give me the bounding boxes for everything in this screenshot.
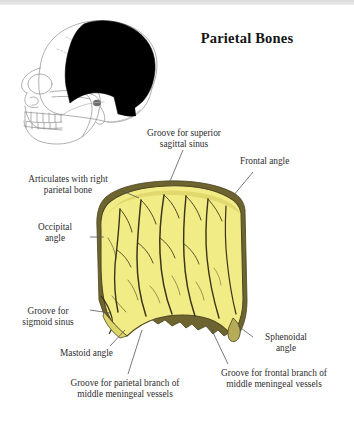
label-occipital-angle: Occipital angle [22,222,88,244]
bone-body-shape [101,186,243,336]
label-frontal-angle: Frontal angle [240,156,336,167]
label-groove-frontal-branch-middle-meningeal-vessels: Groove for frontal branch of middle meni… [198,368,350,390]
figure-title: Parietal Bones [172,30,322,47]
vascular-grooves [108,195,236,318]
leader-frontal-angle [233,172,253,196]
mastoid-angle-notch [103,312,127,338]
leader-sigmoid-sinus [90,310,110,313]
label-groove-superior-sagittal-sinus: Groove for superior sagittal sinus [130,128,238,150]
figure-canvas: Parietal Bones [0,0,354,442]
label-groove-sigmoid-sinus: Groove for sigmoid sinus [6,306,90,328]
parietal-highlight-shape [65,21,155,114]
label-groove-parietal-branch-middle-meningeal-vessels: Groove for parietal branch of middle men… [44,378,206,400]
bone-serrated-edge [97,181,247,340]
label-sphenoidal-angle: Sphenoidal angle [250,332,322,354]
top-gray-band [0,0,354,5]
sigmoid-sinus-groove [101,296,112,334]
leader-mastoid-angle [110,330,125,346]
sphenoidal-angle-corner [228,318,240,342]
label-mastoid-angle: Mastoid angle [60,348,146,359]
label-articulates-with-right-parietal-bone: Articulates with right parietal bone [8,174,128,196]
leader-sagittal-sinus [168,150,183,186]
leader-frontal-branch [208,322,228,364]
parietal-highlight-lower-tab [118,100,136,116]
